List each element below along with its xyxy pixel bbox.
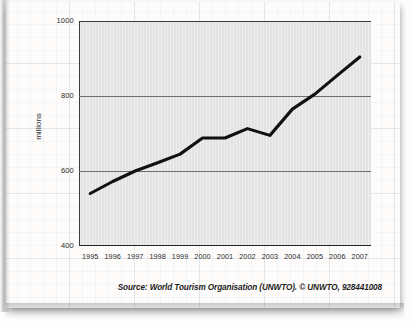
- scanned-page: 4006008001000 19951996199719981999200020…: [0, 0, 412, 326]
- series-line-international-tourist-arrivals: [90, 57, 360, 194]
- line-chart-figure: 4006008001000 19951996199719981999200020…: [0, 0, 412, 326]
- data-series-layer: [0, 0, 412, 326]
- y-axis-title: millions: [34, 87, 43, 167]
- source-note: Source: World Tourism Organisation (UNWT…: [0, 283, 382, 292]
